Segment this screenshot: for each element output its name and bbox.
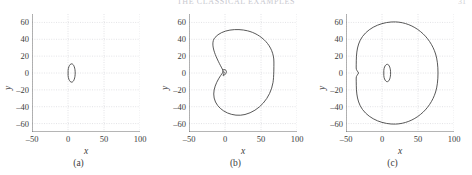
figure-row: THE CLASSICAL EXAMPLES 31 xyxy=(0,0,472,175)
data-curve-b-outer xyxy=(213,30,274,116)
x-tick-label: 0 xyxy=(223,135,227,144)
y-tick-label: 0 xyxy=(25,69,29,78)
axis-ticks-a xyxy=(32,22,140,132)
x-tick-label: 0 xyxy=(66,135,70,144)
y-tick-label: 40 xyxy=(335,35,344,44)
axis-ticks-b xyxy=(189,22,297,132)
y-tick-label: 60 xyxy=(21,18,30,27)
panel-caption-b: (b) xyxy=(157,158,314,168)
plot-panel-a: 60 40 20 0 –20 –40 –60 –50 0 50 100 y x … xyxy=(0,0,157,175)
data-curve-a xyxy=(68,64,75,82)
grid-lines-b xyxy=(189,14,297,132)
y-tick-label: 20 xyxy=(335,52,344,61)
plot-svg-b xyxy=(189,14,297,132)
panel-caption-a: (a) xyxy=(0,158,157,168)
x-axis-label: x xyxy=(32,146,140,156)
y-axis-label: y xyxy=(317,85,327,89)
x-tick-label: –50 xyxy=(340,135,353,144)
x-axis-label: x xyxy=(189,146,297,156)
plot-area-b: 60 40 20 0 –20 –40 –60 –50 0 50 100 xyxy=(189,14,297,132)
y-tick-label: 40 xyxy=(178,35,187,44)
y-tick-label: 40 xyxy=(21,35,30,44)
y-tick-label: –40 xyxy=(330,102,343,111)
y-tick-label: –20 xyxy=(173,86,186,95)
x-axis-label: x xyxy=(346,146,454,156)
plot-svg-a xyxy=(32,14,140,132)
y-tick-label: –40 xyxy=(173,102,186,111)
x-tick-label: 100 xyxy=(291,135,304,144)
grid-lines-a xyxy=(32,14,140,132)
x-tick-label: –50 xyxy=(183,135,196,144)
plot-area-a: 60 40 20 0 –20 –40 –60 –50 0 50 100 xyxy=(32,14,140,132)
y-tick-label: –60 xyxy=(16,119,29,128)
y-axis-label: y xyxy=(3,85,13,89)
x-tick-label: 50 xyxy=(257,135,266,144)
x-tick-label: 50 xyxy=(100,135,109,144)
y-tick-label: 60 xyxy=(178,18,187,27)
y-tick-label: 20 xyxy=(178,52,187,61)
x-tick-label: 0 xyxy=(380,135,384,144)
plot-area-c: 60 40 20 0 –20 –40 –60 –50 0 50 100 xyxy=(346,14,454,132)
y-tick-label: –20 xyxy=(16,86,29,95)
x-tick-label: 100 xyxy=(448,135,461,144)
y-tick-label: –40 xyxy=(16,102,29,111)
x-tick-label: –50 xyxy=(26,135,39,144)
y-tick-label: –60 xyxy=(330,119,343,128)
y-tick-label: –20 xyxy=(330,86,343,95)
x-tick-label: 100 xyxy=(134,135,147,144)
x-tick-label: 50 xyxy=(414,135,423,144)
plot-svg-c xyxy=(346,14,454,132)
plot-panel-b: 60 40 20 0 –20 –40 –60 –50 0 50 100 y x … xyxy=(157,0,314,175)
plot-panel-c: 60 40 20 0 –20 –40 –60 –50 0 50 100 y x … xyxy=(314,0,471,175)
y-tick-label: –60 xyxy=(173,119,186,128)
panel-caption-c: (c) xyxy=(314,158,471,168)
y-axis-label: y xyxy=(160,85,170,89)
y-tick-label: 0 xyxy=(182,69,186,78)
data-curve-b-inner xyxy=(223,70,227,76)
y-tick-label: 20 xyxy=(21,52,30,61)
y-tick-label: 0 xyxy=(339,69,343,78)
y-tick-label: 60 xyxy=(335,18,344,27)
